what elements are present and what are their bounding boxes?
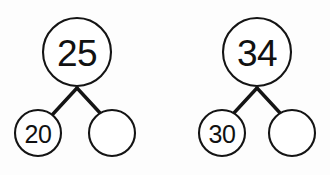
bond-1-whole-value: 25: [57, 33, 97, 74]
bond-2-link-left: [233, 88, 257, 114]
bond-1-part-right-circle[interactable]: [89, 110, 135, 156]
bond-2-part-left-value: 30: [209, 120, 236, 148]
bond-2-part-right-circle[interactable]: [269, 110, 315, 156]
bond-2-link-right: [257, 88, 281, 114]
bond-1-link-left: [53, 88, 77, 114]
bond-2-whole-value: 34: [237, 33, 277, 74]
number-bond-canvas: 25 20 34 30: [0, 0, 330, 175]
bond-1-link-right: [77, 88, 101, 114]
number-bond-group-1: 25 20: [15, 18, 135, 156]
bond-1-part-left-value: 20: [25, 120, 52, 148]
number-bond-worksheet: 25 20 34 30: [0, 0, 330, 175]
number-bond-group-2: 34 30: [199, 18, 315, 156]
